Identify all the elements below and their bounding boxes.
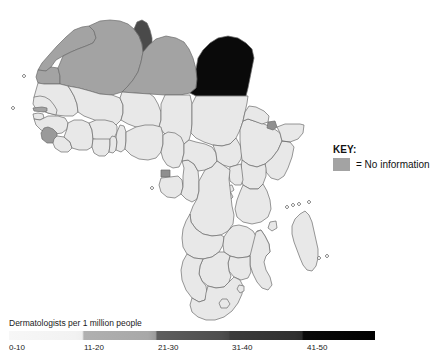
region-madagascar[interactable] — [292, 211, 318, 271]
region-benin[interactable] — [116, 125, 126, 152]
key-swatch-no-information — [333, 158, 350, 171]
scale-tick-41-50: 41-50 — [307, 343, 327, 353]
scale-legend-tick-labels: 0-10 11-20 21-30 31-40 41-50 — [0, 343, 443, 355]
region-sudan[interactable] — [191, 96, 248, 146]
region-ghana[interactable] — [92, 139, 110, 156]
region-equatorial-guinea[interactable] — [161, 170, 170, 177]
key-row-no-information: = No information — [333, 158, 441, 171]
scale-tick-11-20: 11-20 — [84, 343, 104, 353]
region-zimbabwe[interactable] — [228, 256, 251, 280]
region-cameroon[interactable] — [161, 132, 184, 168]
region-gambia[interactable] — [33, 107, 47, 112]
island-seychelles — [307, 200, 311, 204]
scale-legend-gradient-bar — [9, 331, 375, 340]
island-sao-tome — [150, 186, 154, 190]
region-djibouti[interactable] — [267, 121, 277, 130]
region-niger[interactable] — [120, 92, 161, 130]
key-title: KEY: — [333, 144, 441, 156]
island-canary — [22, 74, 26, 78]
island-comoros-1 — [285, 205, 289, 209]
region-egypt[interactable] — [190, 36, 254, 96]
region-mozambique[interactable] — [250, 221, 277, 290]
island-cape-verde — [11, 106, 15, 110]
scale-tick-21-30: 21-30 — [158, 343, 178, 353]
scale-legend-title: Dermatologists per 1 million people — [9, 318, 142, 328]
key-label-no-information: = No information — [356, 159, 430, 171]
region-uganda[interactable] — [229, 164, 243, 185]
region-togo[interactable] — [109, 136, 117, 153]
scale-tick-0-10: 0-10 — [9, 343, 25, 353]
region-gabon[interactable] — [159, 176, 183, 198]
region-nigeria[interactable] — [125, 125, 163, 160]
key-block: KEY: = No information — [333, 144, 441, 171]
scale-tick-31-40: 31-40 — [232, 343, 252, 353]
region-tanzania[interactable] — [235, 184, 271, 224]
africa-dermatologist-map-figure: KEY: = No information Dermatologists per… — [0, 0, 443, 357]
island-comoros-3 — [297, 202, 301, 206]
map-canvas[interactable] — [0, 0, 330, 322]
island-mauritius — [325, 254, 329, 258]
island-comoros-2 — [291, 203, 295, 207]
